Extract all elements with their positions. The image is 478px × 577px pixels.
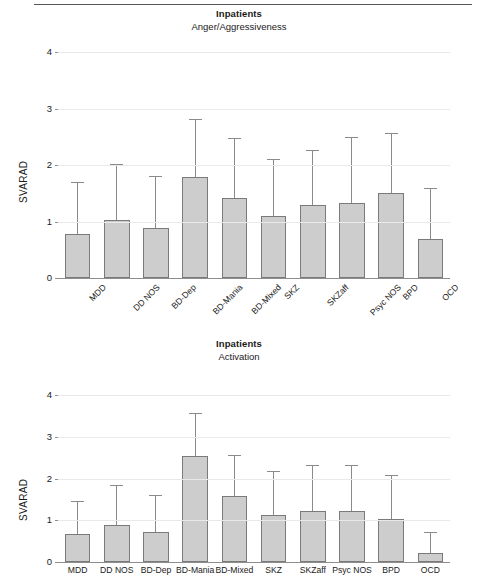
bar[interactable] [261,515,287,562]
error-bar [195,119,196,177]
x-tick-label: MDD [88,283,108,303]
error-bar-cap [267,471,280,472]
gridline-3 [58,109,450,110]
gridline-0 [58,562,450,563]
error-bar [391,133,392,193]
chart-panel-activation: Inpatients Activation SVARAD 01234 MDDDD… [0,338,478,577]
error-bar [234,138,235,198]
error-bar-cap [306,465,319,466]
bar[interactable] [300,205,326,278]
y-tick-label-1: 1 [47,516,52,526]
plot-area-anger: SVARAD 01234 MDDDD NOSBD-DepBD-ManiaBD-M… [0,33,478,329]
plot-area-activation: SVARAD 01234 MDDDD NOSBD-DepBD-ManiaBD-M… [0,363,478,575]
gridline-4 [58,52,450,53]
error-bar-cap [71,501,84,502]
error-bar-cap [149,176,162,177]
gridline-3 [58,437,450,438]
y-tick-mark-2 [55,165,58,166]
y-tick-mark-0 [55,278,58,279]
error-bar-cap [424,188,437,189]
y-tick-label-0: 0 [47,557,52,567]
error-bar-cap [110,485,123,486]
bar[interactable] [143,532,169,562]
gridline-2 [58,479,450,480]
x-tick-label: BPD [401,283,420,302]
y-tick-mark-4 [55,52,58,53]
bar[interactable] [143,228,169,278]
error-bar [155,176,156,227]
bar[interactable] [339,203,365,278]
error-bar-cap [345,137,358,138]
bar[interactable] [418,553,444,562]
error-bar [312,465,313,512]
chart-panel-anger: Inpatients Anger/Aggressiveness SVARAD 0… [0,8,478,330]
bar[interactable] [378,519,404,562]
error-bar-cap [345,465,358,466]
y-tick-label-0: 0 [47,273,52,283]
plot-canvas-activation: 01234 [58,395,450,562]
bar[interactable] [65,234,91,278]
y-tick-mark-3 [55,437,58,438]
bar[interactable] [261,216,287,278]
bar[interactable] [104,525,130,562]
x-tick-label: OCD [421,566,440,575]
x-tick-label: BD-Mania [211,283,244,316]
chart-subtitle-anger: Anger/Aggressiveness [0,20,478,33]
error-bar-cap [385,475,398,476]
error-bar-cap [424,532,437,533]
x-tick-label: DD NOS [100,566,133,575]
x-tick-label: DD NOS [131,283,161,313]
bar[interactable] [222,198,248,278]
chart-header-activation: Inpatients Activation [0,338,478,363]
error-bar [77,182,78,234]
chart-title-anger: Inpatients [0,8,478,20]
bar[interactable] [300,511,326,562]
gridline-2 [58,165,450,166]
error-bar [116,485,117,525]
error-bar-cap [228,455,241,456]
error-bar [155,495,156,531]
error-bar [77,501,78,534]
page-top-rule [34,4,472,5]
error-bar-cap [228,138,241,139]
bar[interactable] [378,193,404,278]
gridline-1 [58,222,450,223]
y-tick-label-2: 2 [47,474,52,484]
plot-canvas-anger: 01234 [58,52,450,278]
bar[interactable] [222,496,248,562]
gridline-4 [58,395,450,396]
y-tick-label-4: 4 [47,47,52,57]
x-tick-label: SKZaff [300,566,326,575]
bar[interactable] [418,239,444,278]
gridline-0 [58,278,450,279]
y-axis-label-anger: SVARAD [18,161,29,203]
error-bar [234,455,235,496]
x-tick-label: BD-Mixed [250,283,283,316]
bar[interactable] [104,220,130,278]
x-tick-label: Psyc NOS [332,566,372,575]
y-tick-label-2: 2 [47,160,52,170]
x-tick-label: BD-Mixed [216,566,254,575]
error-bar [273,159,274,216]
error-bar [391,475,392,519]
x-tick-label: Psyc NOS [368,283,402,317]
bar[interactable] [182,456,208,562]
error-bar [273,471,274,516]
bar[interactable] [182,177,208,278]
y-tick-mark-3 [55,109,58,110]
y-tick-mark-2 [55,479,58,480]
y-tick-label-3: 3 [47,432,52,442]
x-tick-label: MDD [68,566,88,575]
error-bar [195,413,196,456]
bar[interactable] [65,534,91,562]
error-bar-cap [267,159,280,160]
y-tick-mark-1 [55,222,58,223]
chart-title-activation: Inpatients [0,338,478,350]
bar[interactable] [339,511,365,562]
x-tick-label: BD-Dep [170,283,198,311]
error-bar [430,188,431,239]
error-bar [430,532,431,553]
y-tick-mark-0 [55,562,58,563]
error-bar-cap [189,119,202,120]
error-bar-cap [189,413,202,414]
